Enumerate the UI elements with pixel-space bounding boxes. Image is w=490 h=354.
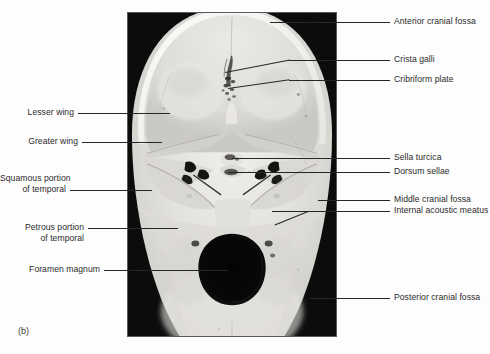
- label-greater-wing: Greater wing: [0, 136, 78, 147]
- leader-middle-cranial-fossa: [318, 200, 390, 201]
- label-cribriform-plate: Cribriform plate: [394, 74, 454, 85]
- label-sella-turcica: Sella turcica: [394, 152, 441, 163]
- leader-dorsum-sellae: [228, 172, 390, 173]
- label-internal-acoustic-meatus: Internal acoustic meatus: [394, 205, 488, 216]
- leader-cribriform-plate-horizontal: [289, 80, 390, 81]
- label-internal-acoustic-meatus-text: Internal acoustic meatus: [394, 205, 488, 215]
- label-crista-galli: Crista galli: [394, 54, 435, 65]
- leader-crista-galli-horizontal: [289, 60, 390, 61]
- label-lesser-wing-text: Lesser wing: [28, 107, 74, 117]
- figure-caption: (b): [18, 326, 29, 336]
- label-petrous-portion-line1: Petrous portion: [0, 222, 84, 233]
- label-dorsum-sellae: Dorsum sellae: [394, 166, 450, 177]
- label-cribriform-plate-text: Cribriform plate: [394, 74, 454, 84]
- label-petrous-portion-line2: of temporal: [0, 233, 84, 244]
- label-posterior-cranial-fossa-text: Posterior cranial fossa: [394, 292, 480, 302]
- leader-anterior-cranial-fossa: [270, 22, 390, 23]
- label-squamous-portion-line2: of temporal: [0, 184, 66, 195]
- label-sella-turcica-text: Sella turcica: [394, 152, 441, 162]
- label-lesser-wing: Lesser wing: [0, 107, 74, 118]
- label-middle-cranial-fossa-text: Middle cranial fossa: [394, 194, 471, 204]
- leader-squamous-portion-of-temporal: [70, 190, 152, 191]
- leader-lesser-wing: [78, 113, 170, 114]
- label-anterior-cranial-fossa: Anterior cranial fossa: [394, 16, 476, 27]
- label-greater-wing-text: Greater wing: [28, 136, 78, 146]
- label-crista-galli-text: Crista galli: [394, 54, 435, 64]
- label-squamous-portion-line1: Squamous portion: [0, 173, 66, 184]
- label-foramen-magnum-text: Foramen magnum: [29, 264, 100, 274]
- skull-photograph-image: [128, 13, 336, 336]
- label-squamous-portion-of-temporal: Squamous portion of temporal: [0, 173, 66, 195]
- leader-petrous-portion-of-temporal: [88, 228, 178, 229]
- leader-internal-acoustic-meatus: [272, 211, 390, 212]
- label-dorsum-sellae-text: Dorsum sellae: [394, 166, 450, 176]
- label-petrous-portion-of-temporal: Petrous portion of temporal: [0, 222, 84, 244]
- leader-foramen-magnum: [104, 270, 228, 271]
- label-anterior-cranial-fossa-text: Anterior cranial fossa: [394, 16, 476, 26]
- leader-greater-wing: [82, 142, 162, 143]
- leader-sella-turcica: [232, 158, 390, 159]
- figure-page: Anterior cranial fossa Crista galli Crib…: [0, 0, 490, 354]
- label-middle-cranial-fossa: Middle cranial fossa: [394, 194, 471, 205]
- label-posterior-cranial-fossa: Posterior cranial fossa: [394, 292, 480, 303]
- leader-posterior-cranial-fossa: [310, 298, 390, 299]
- label-foramen-magnum: Foramen magnum: [0, 264, 100, 275]
